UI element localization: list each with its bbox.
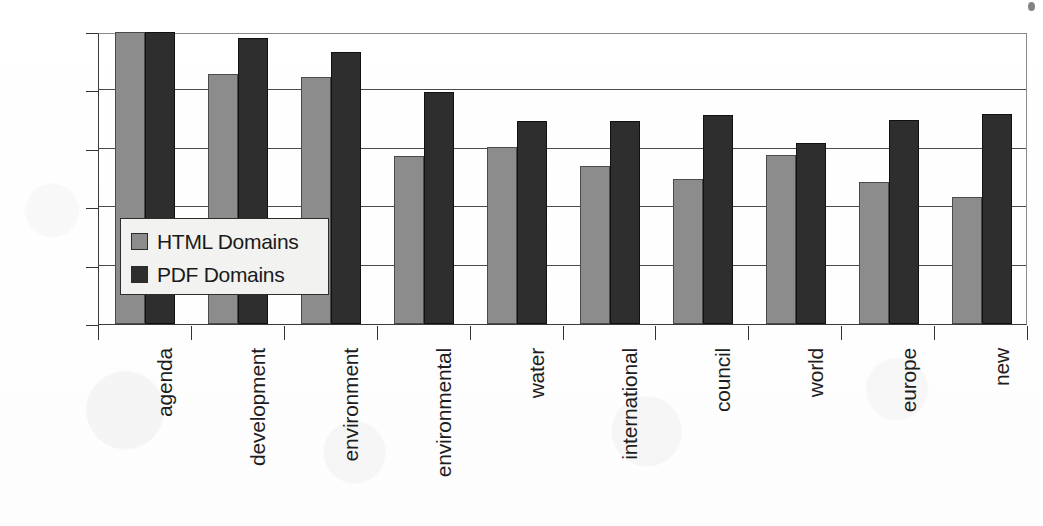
bar-group (378, 34, 471, 324)
legend-swatch-html-domains (131, 233, 148, 250)
x-axis-tick-mark (470, 326, 471, 340)
legend-item-pdf: PDF Domains (131, 258, 328, 291)
x-axis-tick-mark (98, 326, 99, 340)
bar-group (656, 34, 749, 324)
x-axis-tick-mark (284, 326, 285, 340)
bar-group (749, 34, 842, 324)
x-axis-tick-mark (655, 326, 656, 340)
bar-pdf-domains (517, 121, 547, 324)
bar-group (842, 34, 935, 324)
bar-html-domains (394, 156, 424, 324)
x-axis-tick-mark (841, 326, 842, 340)
x-axis-category-label: environment (339, 348, 363, 461)
x-axis-category-label: water (525, 348, 549, 398)
bar-group (935, 34, 1028, 324)
legend-swatch-pdf-domains (131, 266, 148, 283)
x-axis-tick-mark (934, 326, 935, 340)
bar-html-domains (487, 147, 517, 324)
chart-legend: HTML Domains PDF Domains (120, 218, 329, 295)
legend-item-html: HTML Domains (131, 225, 328, 258)
bar-pdf-domains (331, 52, 361, 324)
bar-pdf-domains (424, 92, 454, 324)
bar-html-domains (859, 182, 889, 324)
bar-html-domains (952, 197, 982, 324)
x-axis-tick-mark (377, 326, 378, 340)
x-axis-category-label: new (990, 348, 1014, 386)
bar-html-domains (580, 166, 610, 324)
x-axis-category-label: agenda (153, 348, 177, 417)
bar-chart: 0%20%40%60%80%100% agendadevelopmentenvi… (0, 0, 1043, 526)
x-axis-category-label: council (711, 348, 735, 412)
bar-html-domains (673, 179, 703, 324)
x-axis-tick-mark (563, 326, 564, 340)
bar-html-domains (766, 155, 796, 324)
scan-artifact-mark (1028, 2, 1035, 11)
x-axis-category-label: world (804, 348, 828, 397)
x-axis-tick-mark (191, 326, 192, 340)
x-axis-category-label: development (246, 348, 270, 466)
bar-pdf-domains (982, 114, 1012, 324)
x-axis-tick-mark (748, 326, 749, 340)
x-axis-category-label: international (618, 348, 642, 460)
bar-pdf-domains (703, 115, 733, 324)
legend-label-html-domains: HTML Domains (157, 230, 298, 254)
legend-label-pdf-domains: PDF Domains (157, 263, 284, 287)
bar-pdf-domains (796, 143, 826, 324)
bar-group (564, 34, 657, 324)
bar-group (471, 34, 564, 324)
bar-pdf-domains (889, 120, 919, 324)
bar-pdf-domains (610, 121, 640, 324)
x-axis-tick-mark (1027, 326, 1028, 340)
x-axis-category-label: environmental (432, 348, 456, 477)
x-axis-category-label: europe (897, 348, 921, 412)
